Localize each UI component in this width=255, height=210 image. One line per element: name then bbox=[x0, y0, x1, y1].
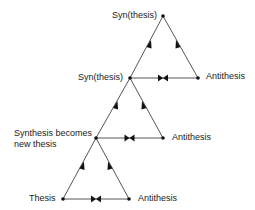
dialectic-diagram: Syn(thesis) Syn(thesis) Antithesis Synth… bbox=[0, 0, 255, 210]
label-new-thesis-line2: new thesis bbox=[14, 139, 57, 150]
arrow-up-icon bbox=[80, 162, 85, 171]
diagram-graphics bbox=[0, 0, 255, 210]
node-new-thesis bbox=[94, 136, 98, 140]
bowtie-arrow-icon bbox=[91, 196, 101, 203]
node-low-antithesis bbox=[161, 136, 165, 140]
arrow-up-icon bbox=[108, 162, 113, 171]
node-mid-synthesis bbox=[128, 76, 132, 80]
node-thesis bbox=[61, 197, 65, 201]
arrow-up-icon bbox=[113, 101, 118, 110]
node-mid-antithesis bbox=[196, 76, 200, 80]
label-new-thesis-line1: Synthesis becomes bbox=[14, 128, 92, 139]
node-top-synthesis bbox=[161, 14, 165, 18]
arrow-up-icon bbox=[176, 40, 181, 49]
label-mid-synthesis: Syn(thesis) bbox=[78, 72, 123, 83]
label-bottom-antithesis: Antithesis bbox=[138, 193, 177, 204]
label-thesis: Thesis bbox=[29, 193, 56, 204]
node-bottom-antithesis bbox=[127, 197, 131, 201]
arrow-up-icon bbox=[142, 101, 147, 110]
bowtie-arrow-icon bbox=[158, 75, 168, 82]
label-low-antithesis: Antithesis bbox=[172, 132, 211, 143]
bowtie-arrow-icon bbox=[125, 135, 135, 142]
label-top-synthesis: Syn(thesis) bbox=[112, 10, 157, 21]
label-mid-antithesis: Antithesis bbox=[206, 71, 245, 82]
